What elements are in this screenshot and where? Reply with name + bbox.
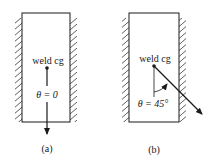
- weld-cg-dot: [152, 64, 156, 68]
- angle-label: θ = 45°: [138, 98, 169, 109]
- left-wall-hatch: [15, 18, 22, 122]
- right-wall-hatch: [179, 18, 186, 122]
- panel-a: weld cg θ = 0 (a): [15, 13, 77, 155]
- weld-cg-label: weld cg: [32, 55, 63, 66]
- caption-b: (b): [148, 144, 160, 156]
- right-wall-hatch: [70, 18, 77, 122]
- left-wall-hatch: [122, 18, 129, 122]
- weld-cg-dot: [45, 66, 49, 70]
- weld-cg-label: weld cg: [139, 53, 170, 64]
- weld-load-angle-figure: weld cg θ = 0 (a) weld cg θ = 45° (b): [0, 0, 210, 162]
- angle-label: θ = 0: [36, 89, 58, 100]
- caption-a: (a): [41, 143, 52, 155]
- panel-b: weld cg θ = 45° (b): [122, 13, 202, 156]
